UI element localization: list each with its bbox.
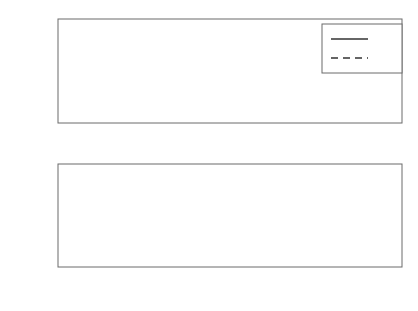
- phase-plot: [58, 164, 402, 267]
- phase-axes-frame: [58, 164, 402, 267]
- legend-box: [322, 24, 402, 73]
- magnitude-plot: [0, 0, 402, 123]
- figure: [0, 0, 418, 311]
- legend: [0, 0, 402, 73]
